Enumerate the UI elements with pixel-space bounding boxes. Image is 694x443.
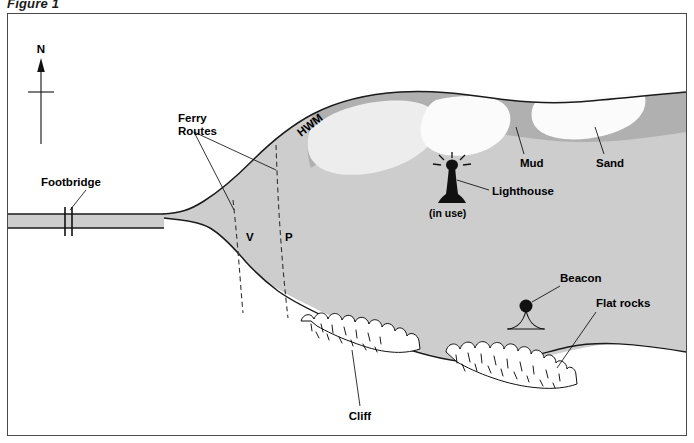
ferry-routes-label-line1: Ferry <box>178 112 207 124</box>
north-label: N <box>37 43 45 55</box>
north-arrow <box>28 58 54 144</box>
estuary-map: Footbridge N V P Ferry Routes HWM Mud Sa… <box>8 14 686 435</box>
footbridge-leader <box>70 190 86 210</box>
cliff-leader <box>352 350 360 406</box>
cliff-label: Cliff <box>349 410 372 422</box>
beacon-label: Beacon <box>560 272 602 284</box>
ferry-route-v-label: V <box>246 231 254 243</box>
lighthouse-status-label: (in use) <box>429 207 466 219</box>
ferry-route-p-label: P <box>285 231 293 243</box>
lighthouse-label: Lighthouse <box>492 185 554 197</box>
ferry-routes-label-line2: Routes <box>178 125 217 137</box>
river-channel <box>8 214 164 228</box>
mud-label: Mud <box>520 157 544 169</box>
map-frame: Footbridge N V P Ferry Routes HWM Mud Sa… <box>7 13 687 436</box>
flat-rocks-label: Flat rocks <box>596 297 650 309</box>
figure-caption: Figure 1 <box>7 0 59 11</box>
sand-label: Sand <box>596 157 624 169</box>
footbridge-label: Footbridge <box>41 176 101 188</box>
